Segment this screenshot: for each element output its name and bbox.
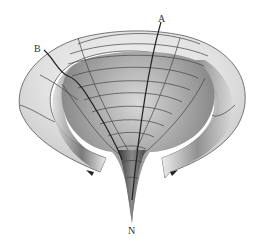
- funnel-bowl: [62, 51, 215, 222]
- left-cut-tip: [86, 170, 94, 176]
- label-b: B: [34, 44, 41, 54]
- label-a: A: [158, 14, 165, 24]
- funnel-surface-diagram: [0, 0, 260, 249]
- label-n: N: [128, 226, 135, 236]
